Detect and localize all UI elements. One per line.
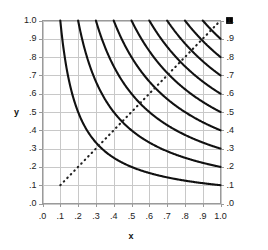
y-axis-right-tick-label: .5 (227, 108, 235, 117)
chart-figure: 1.0.9.8.7.6.5.4.3.2.1.0 1..9.8.7.6.5.4.3… (0, 0, 268, 250)
y-axis-right-tick-label: .1 (227, 181, 235, 190)
y-axis-right-tick-label: .3 (227, 144, 235, 153)
y-axis-left-tick-label: .6 (29, 89, 37, 98)
x-axis-title: x (129, 232, 134, 241)
y-axis-right-tick-label: .7 (227, 71, 235, 80)
tick-marks (39, 22, 224, 208)
y-axis-right-tick-label: 1. (227, 16, 235, 25)
y-axis-left-tick-label: .7 (29, 71, 37, 80)
y-axis-left-tick-label: 1.0 (24, 16, 37, 25)
y-axis-left-tick-label: .5 (29, 108, 37, 117)
y-axis-right-tick-label: .9 (227, 34, 235, 43)
y-axis-right-tick-label: .8 (227, 53, 235, 62)
y-axis-right-tick-label: .0 (227, 199, 235, 208)
y-axis-left-tick-label: .3 (29, 144, 37, 153)
grid-lines (43, 21, 222, 205)
y-axis-left-tick-label: .8 (29, 53, 37, 62)
y-axis-left-tick-label: .9 (29, 34, 37, 43)
y-axis-left-tick-label: .2 (29, 162, 37, 171)
y-axis-right-tick-label: .2 (227, 162, 235, 171)
y-axis-right-tick-label: .4 (227, 126, 235, 135)
y-axis-left-tick-label: .1 (29, 181, 37, 190)
y-axis-title: y (14, 108, 19, 117)
y-axis-right-tick-label: .6 (227, 89, 235, 98)
y-axis-left-tick-label: .0 (29, 199, 37, 208)
y-axis-left-tick-label: .4 (29, 126, 37, 135)
x-axis-tick-label: 1.0 (207, 212, 235, 221)
